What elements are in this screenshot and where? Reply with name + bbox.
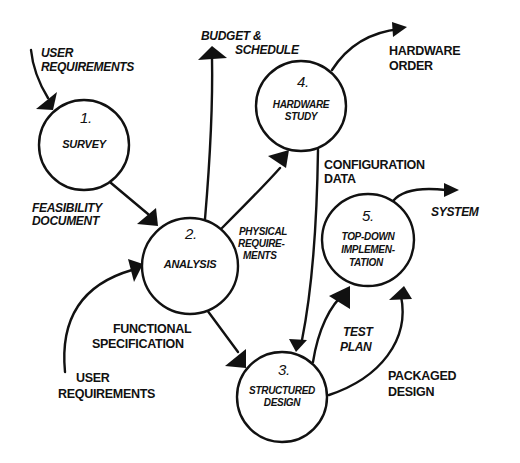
svg-text:REQUIRE-: REQUIRE- bbox=[238, 238, 285, 249]
data-flow-diagram: 1. SURVEY 2. ANALYSIS 3. STRUCTURED DESI… bbox=[0, 0, 520, 463]
label-hardware-order: HARDWARE ORDER bbox=[389, 44, 460, 73]
process-name: ANALYSIS bbox=[163, 258, 217, 270]
svg-text:FUNCTIONAL: FUNCTIONAL bbox=[113, 322, 192, 336]
svg-text:REQUIREMENTS: REQUIREMENTS bbox=[58, 387, 155, 401]
svg-text:DOCUMENT: DOCUMENT bbox=[32, 214, 101, 228]
process-number: 2. bbox=[184, 225, 197, 242]
flow-feasibility-document bbox=[111, 183, 158, 226]
process-name-line-2: STUDY bbox=[285, 111, 319, 122]
svg-text:HARDWARE: HARDWARE bbox=[389, 44, 460, 58]
label-user-requirements-top: USER REQUIREMENTS bbox=[41, 46, 134, 74]
svg-text:PHYSICAL: PHYSICAL bbox=[239, 226, 287, 237]
flow-system bbox=[393, 183, 459, 201]
arrowhead-icon bbox=[392, 22, 407, 37]
svg-text:USER: USER bbox=[76, 371, 110, 385]
process-name-line-1: TOP-DOWN bbox=[342, 231, 396, 242]
svg-text:BUDGET &: BUDGET & bbox=[201, 29, 261, 43]
process-name-line-3: TATION bbox=[349, 257, 384, 268]
process-4-hardware-study: 4. HARDWARE STUDY bbox=[256, 61, 346, 151]
process-name-line-1: STRUCTURED bbox=[249, 385, 315, 396]
process-number: 3. bbox=[278, 361, 290, 378]
process-name-line-2: IMPLEMEN- bbox=[341, 244, 395, 255]
label-feasibility-document: FEASIBILITY DOCUMENT bbox=[32, 201, 103, 228]
flow-functional-specification bbox=[207, 310, 246, 368]
label-configuration-data: CONFIGURATION DATA bbox=[324, 158, 425, 186]
svg-text:ORDER: ORDER bbox=[389, 59, 433, 73]
arrowhead-icon bbox=[389, 286, 412, 300]
process-2-analysis: 2. ANALYSIS bbox=[142, 218, 238, 314]
arrowhead-icon bbox=[137, 208, 158, 226]
svg-text:DESIGN: DESIGN bbox=[388, 385, 434, 399]
label-functional-specification: FUNCTIONAL SPECIFICATION bbox=[92, 322, 192, 351]
arrowhead-icon bbox=[198, 46, 227, 60]
svg-text:CONFIGURATION: CONFIGURATION bbox=[324, 158, 425, 172]
svg-text:REQUIREMENTS: REQUIREMENTS bbox=[41, 60, 134, 74]
svg-text:PACKAGED: PACKAGED bbox=[388, 369, 456, 383]
flow-user-requirements-to-analysis bbox=[64, 259, 143, 372]
svg-text:MENTS: MENTS bbox=[243, 250, 277, 261]
arrowhead-icon bbox=[225, 349, 246, 368]
process-5-top-down-implementation: 5. TOP-DOWN IMPLEMEN- TATION bbox=[322, 194, 414, 286]
svg-text:TEST: TEST bbox=[343, 325, 374, 339]
label-test-plan: TEST PLAN bbox=[340, 325, 374, 354]
label-physical-requirements: PHYSICAL REQUIRE- MENTS bbox=[238, 226, 287, 261]
process-name: SURVEY bbox=[62, 138, 107, 150]
process-name-line-2: DESIGN bbox=[264, 397, 302, 408]
flow-physical-requirements bbox=[222, 150, 289, 228]
svg-text:USER: USER bbox=[41, 46, 74, 60]
process-number: 4. bbox=[297, 73, 309, 90]
label-packaged-design: PACKAGED DESIGN bbox=[388, 369, 456, 399]
flow-configuration-data bbox=[289, 150, 318, 352]
process-3-structured-design: 3. STRUCTURED DESIGN bbox=[237, 352, 327, 442]
svg-text:FEASIBILITY: FEASIBILITY bbox=[32, 201, 103, 215]
arrowhead-icon bbox=[268, 150, 289, 168]
svg-text:SCHEDULE: SCHEDULE bbox=[235, 43, 300, 57]
process-number: 5. bbox=[362, 207, 374, 224]
process-name-line-1: HARDWARE bbox=[273, 99, 330, 110]
svg-text:SYSTEM: SYSTEM bbox=[431, 205, 480, 219]
process-1-survey: 1. SURVEY bbox=[39, 100, 129, 190]
flow-budget-schedule bbox=[198, 46, 227, 219]
label-system: SYSTEM bbox=[431, 205, 480, 219]
arrowhead-icon bbox=[444, 183, 459, 197]
svg-text:SPECIFICATION: SPECIFICATION bbox=[92, 337, 184, 351]
svg-text:DATA: DATA bbox=[324, 172, 356, 186]
arrowhead-icon bbox=[289, 339, 307, 352]
label-user-requirements-bottom: USER REQUIREMENTS bbox=[58, 371, 155, 401]
process-number: 1. bbox=[80, 109, 92, 126]
svg-text:PLAN: PLAN bbox=[340, 340, 372, 354]
